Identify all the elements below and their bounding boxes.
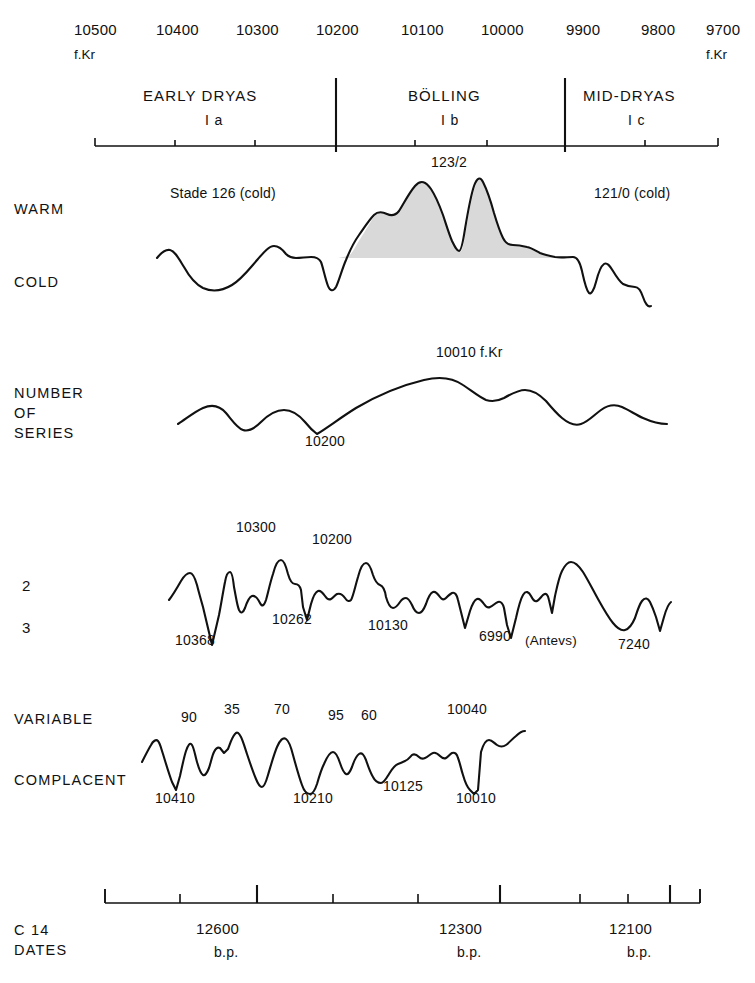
row-label-dates: DATES <box>14 943 67 958</box>
annotation-antevs: (Antevs) <box>525 634 577 648</box>
row-label-variable: VARIABLE <box>14 712 93 727</box>
c14-unit-12300: b.p. <box>457 945 482 959</box>
annotation-10040: 10040 <box>447 702 487 716</box>
peak-label-123-2: 123/2 <box>431 155 467 169</box>
series-2-3-curve-group <box>169 560 671 645</box>
zone-name-bolling: BÖLLING <box>408 88 481 103</box>
annotation-95: 95 <box>328 708 344 722</box>
row-label-series-2: 2 <box>22 578 31 593</box>
annotation-60: 60 <box>361 708 377 722</box>
annotation-10010-fkr: 10010 f.Kr <box>436 345 503 359</box>
annotation-stade-126: Stade 126 (cold) <box>170 186 276 200</box>
c14-label-12600: 12600 <box>196 921 239 936</box>
top-scale-tick-0: 10500 <box>74 22 117 37</box>
top-scale-tick-3: 10200 <box>316 22 359 37</box>
top-scale-tick-7: 9800 <box>641 22 675 37</box>
top-scale-unit-right: f.Kr <box>706 48 727 62</box>
row-label-complacent: COMPLACENT <box>14 773 127 788</box>
row-label-c14: C 14 <box>14 923 49 938</box>
annotation-10125: 10125 <box>383 779 423 793</box>
annotation-70: 70 <box>274 702 290 716</box>
variability-curve-group <box>142 731 525 794</box>
top-scale-tick-2: 10300 <box>236 22 279 37</box>
annotation-6990: 6990 <box>479 629 511 643</box>
number-of-series-curve-line <box>178 378 667 434</box>
row-label-cold: COLD <box>14 275 59 290</box>
zone-code-early-dryas: I a <box>205 113 223 127</box>
annotation-7240: 7240 <box>618 637 650 651</box>
series-2-3-curve-line <box>169 560 671 645</box>
annotation-10200-series: 10200 <box>305 434 345 448</box>
c14-label-12100: 12100 <box>609 921 652 936</box>
stratigraphic-correlation-figure: 10500 10400 10300 10200 10100 10000 9900… <box>0 0 755 983</box>
zone-code-bolling: I b <box>441 113 459 127</box>
diagram-line-art <box>0 0 755 983</box>
top-scale-tick-6: 9900 <box>566 22 600 37</box>
annotation-10200-2: 10200 <box>312 532 352 546</box>
variability-curve-line <box>142 731 525 794</box>
top-scale-unit-left: f.Kr <box>74 48 95 62</box>
zone-code-mid-dryas: I c <box>628 113 645 127</box>
row-label-warm: WARM <box>14 202 64 217</box>
top-scale-tick-1: 10400 <box>156 22 199 37</box>
annotation-90: 90 <box>181 710 197 724</box>
c14-unit-12600: b.p. <box>214 945 239 959</box>
annotation-10130: 10130 <box>368 618 408 632</box>
annotation-10368: 10368 <box>175 633 215 647</box>
annotation-35: 35 <box>224 702 240 716</box>
annotation-10262: 10262 <box>272 612 312 626</box>
row-label-of: OF <box>14 406 37 421</box>
row-label-series: SERIES <box>14 426 74 441</box>
c14-axis <box>105 885 700 903</box>
c14-unit-12100: b.p. <box>627 945 652 959</box>
row-label-series-3: 3 <box>22 620 31 635</box>
zone-name-mid-dryas: MID-DRYAS <box>583 88 676 103</box>
top-scale-tick-4: 10100 <box>401 22 444 37</box>
bolling-shaded-area <box>338 180 579 259</box>
annotation-10300: 10300 <box>236 520 276 534</box>
annotation-10210: 10210 <box>293 791 333 805</box>
annotation-10010: 10010 <box>456 791 496 805</box>
annotation-10410: 10410 <box>155 791 195 805</box>
row-label-number: NUMBER <box>14 386 84 401</box>
top-scale-tick-8: 9700 <box>706 22 740 37</box>
c14-label-12300: 12300 <box>439 921 482 936</box>
annotation-121-0-cold: 121/0 (cold) <box>594 186 670 200</box>
top-scale-tick-5: 10000 <box>481 22 524 37</box>
number-of-series-curve-group <box>178 378 667 434</box>
zone-name-early-dryas: EARLY DRYAS <box>143 88 257 103</box>
